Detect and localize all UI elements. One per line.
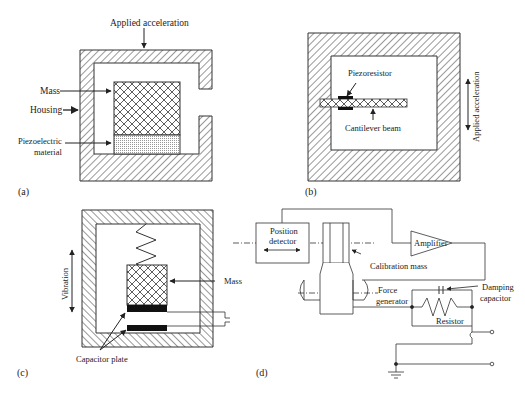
label-vibration: Vibration [60, 267, 70, 300]
label-damping: Damping [482, 282, 514, 292]
capacitor-plate-top [127, 305, 167, 312]
panel-d-tag: (d) [256, 367, 268, 379]
label-force-generator: generator [376, 296, 408, 306]
label-mass: Mass [40, 86, 60, 96]
label-applied-acceleration: Applied acceleration [471, 71, 481, 142]
accelerometer-diagrams: Applied acceleration Mass Housing Piezoe… [0, 0, 525, 397]
panel-b: Piezoresistor Cantilever beam Applied ac… [305, 33, 481, 198]
cantilever-beam [320, 99, 407, 107]
label-mass: Mass [224, 276, 242, 286]
piezoelectric-layer [114, 135, 180, 154]
calibration-mass [323, 223, 349, 263]
label-cantilever-beam: Cantilever beam [345, 123, 401, 133]
label-applied-acceleration: Applied acceleration [110, 18, 189, 28]
panel-b-tag: (b) [305, 186, 317, 198]
resistor [412, 298, 472, 316]
piezoresistor-bottom [338, 107, 353, 110]
capacitor-plate-bottom [127, 325, 167, 331]
panel-c: Vibration Mass Capacitor plate (c) [17, 210, 242, 379]
mass-block [114, 82, 180, 135]
spring [136, 224, 156, 268]
mass-block [127, 265, 167, 305]
label-piezoelectric-material: material [34, 147, 62, 157]
panel-c-tag: (c) [17, 367, 28, 379]
label-capacitor-plate: Capacitor plate [76, 354, 128, 364]
label-damping-capacitor: capacitor [480, 293, 511, 303]
panel-a-tag: (a) [18, 186, 29, 198]
panel-a: Applied acceleration Mass Housing Piezoe… [18, 18, 212, 198]
label-housing: Housing [30, 105, 62, 115]
piezoresistor-top [338, 96, 353, 99]
label-piezoresistor: Piezoresistor [348, 68, 392, 78]
label-calibration-mass: Calibration mass [370, 261, 427, 271]
label-position: Position [270, 226, 299, 236]
label-force: Force [378, 285, 398, 295]
label-resistor: Resistor [436, 316, 464, 326]
label-position-detector: detector [269, 236, 297, 246]
label-amplifier: Amplifier [414, 238, 448, 248]
label-piezoelectric: Piezoelectric [18, 136, 62, 146]
